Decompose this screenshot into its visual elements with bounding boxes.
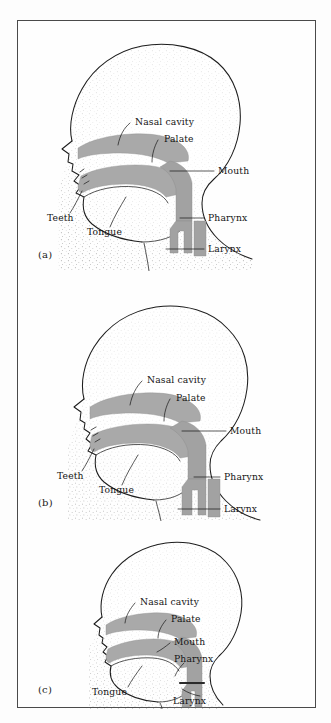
label-nasal-cavity: Nasal cavity [135, 116, 195, 127]
label-palate: Palate [171, 613, 201, 624]
label-tongue: Tongue [92, 686, 127, 697]
label-larynx: Larynx [173, 695, 207, 706]
figure-frame: Nasal cavity Palate Mouth Teeth Tongue P… [17, 20, 316, 708]
panel-c-drawing: Nasal cavity Palate Mouth Pharynx Tongue… [18, 521, 317, 709]
panel-caption-b: (b) [38, 497, 53, 508]
label-pharynx: Pharynx [208, 212, 248, 223]
label-palate: Palate [164, 133, 194, 144]
label-palate: Palate [176, 392, 206, 403]
panel-a-drawing: Nasal cavity Palate Mouth Teeth Tongue P… [18, 21, 317, 271]
label-teeth: Teeth [57, 470, 84, 481]
label-tongue: Tongue [99, 484, 134, 495]
label-pharynx: Pharynx [174, 653, 214, 664]
label-larynx: Larynx [224, 503, 258, 514]
panel-c: Nasal cavity Palate Mouth Pharynx Tongue… [18, 521, 317, 709]
panel-caption-c: (c) [38, 684, 52, 695]
panel-b: Nasal cavity Palate Mouth Teeth Tongue P… [18, 271, 317, 521]
panel-a: Nasal cavity Palate Mouth Teeth Tongue P… [18, 21, 317, 271]
label-nasal-cavity: Nasal cavity [147, 374, 207, 385]
label-teeth: Teeth [47, 212, 74, 223]
panel-b-drawing: Nasal cavity Palate Mouth Teeth Tongue P… [18, 271, 317, 521]
label-larynx: Larynx [208, 243, 242, 254]
label-tongue: Tongue [87, 226, 122, 237]
label-mouth: Mouth [218, 165, 249, 176]
label-pharynx: Pharynx [224, 471, 264, 482]
esophagus-shape [208, 479, 220, 517]
label-mouth: Mouth [174, 636, 205, 647]
label-mouth: Mouth [230, 425, 261, 436]
esophagus-shape [194, 221, 206, 256]
label-nasal-cavity: Nasal cavity [140, 596, 200, 607]
panel-caption-a: (a) [38, 249, 52, 260]
